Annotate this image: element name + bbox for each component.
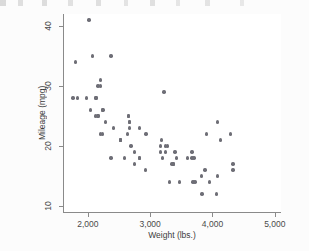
- figure-canvas: 10203040 2,0003,0004,0005,000 Mileage (m…: [0, 0, 309, 251]
- y-axis-title: Mileage (mpg): [36, 14, 48, 212]
- scatter-point: [138, 126, 141, 129]
- scatter-point: [144, 168, 147, 171]
- scatter-point: [109, 54, 112, 57]
- scatter-point: [216, 174, 219, 177]
- scatter-point: [129, 144, 132, 147]
- x-axis-line: [63, 212, 281, 213]
- scatter-point: [219, 138, 222, 141]
- x-axis-tick-label: 2,000: [58, 219, 118, 229]
- plot-region: [63, 14, 281, 212]
- x-axis-title: Weight (lbs.): [63, 230, 281, 240]
- scatter-point: [85, 96, 88, 99]
- scatter-point: [229, 132, 232, 135]
- scatter-point: [186, 156, 189, 159]
- scatter-point: [123, 156, 126, 159]
- scatter-point: [192, 156, 195, 159]
- scatter-point: [119, 138, 122, 141]
- scatter-point: [159, 150, 162, 153]
- scatter-point: [128, 126, 131, 129]
- scatter-point: [74, 60, 77, 63]
- x-axis-tick-label: 4,000: [182, 219, 242, 229]
- scatter-point: [216, 120, 219, 123]
- y-axis-tick: [59, 146, 63, 147]
- scatter-point: [101, 132, 104, 135]
- scatter-point: [96, 84, 99, 87]
- scatter-points-layer: [63, 14, 281, 212]
- scatter-point: [101, 108, 104, 111]
- scatter-point: [87, 18, 90, 21]
- scatter-point: [175, 156, 178, 159]
- scatter-point: [71, 96, 74, 99]
- scatter-point: [168, 180, 171, 183]
- x-axis-tick: [275, 213, 276, 217]
- scatter-point: [208, 180, 211, 183]
- scatter-point: [231, 168, 234, 171]
- x-axis-tick-label: 3,000: [120, 219, 180, 229]
- scatter-point: [200, 174, 203, 177]
- scatter-point: [215, 192, 218, 195]
- y-axis-tick: [59, 26, 63, 27]
- y-axis-line: [63, 14, 64, 212]
- scatter-point: [161, 156, 164, 159]
- scatter-point: [133, 162, 136, 165]
- scatter-point: [94, 96, 97, 99]
- scatter-point: [172, 162, 175, 165]
- x-axis-tick: [88, 213, 89, 217]
- scatter-point: [112, 126, 115, 129]
- scatter-point: [128, 120, 131, 123]
- scatter-point: [164, 150, 167, 153]
- scatter-point: [89, 108, 92, 111]
- scatter-point: [104, 120, 107, 123]
- scatter-point: [91, 54, 94, 57]
- scatter-point: [166, 144, 169, 147]
- scatter-point: [133, 150, 136, 153]
- scatter-point: [159, 144, 162, 147]
- scatter-point: [203, 168, 206, 171]
- scatter-point: [126, 132, 129, 135]
- scatter-point: [231, 162, 234, 165]
- scatter-point: [138, 156, 141, 159]
- scatter-point: [76, 96, 79, 99]
- scatter-point: [99, 78, 102, 81]
- scatter-point: [127, 114, 130, 117]
- scatter-point: [193, 180, 196, 183]
- scatter-point: [109, 156, 112, 159]
- scatter-point: [173, 150, 176, 153]
- x-axis-tick: [150, 213, 151, 217]
- scan-noise-artifact: [0, 0, 309, 6]
- x-axis-tick-label: 5,000: [245, 219, 305, 229]
- scatter-point: [144, 132, 147, 135]
- scatter-point: [160, 138, 163, 141]
- x-axis-tick: [212, 213, 213, 217]
- scatter-point: [96, 114, 99, 117]
- scatter-point: [178, 180, 181, 183]
- y-axis-tick: [59, 86, 63, 87]
- scatter-point: [205, 132, 208, 135]
- scatter-point: [190, 150, 193, 153]
- scatter-point: [162, 90, 165, 93]
- y-axis-tick: [59, 206, 63, 207]
- scatter-point: [200, 192, 203, 195]
